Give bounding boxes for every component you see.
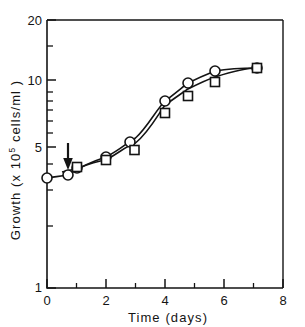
y-axis-title: Growth (x 105 cells/ml ) <box>7 80 23 240</box>
y-axis-minor-ticks <box>47 46 53 226</box>
y-tick-label-10: 10 <box>28 73 42 88</box>
x-tick-label-0: 0 <box>43 293 50 308</box>
data-point-square <box>211 78 220 87</box>
growth-curve-figure: 20 10 5 1 0 2 4 6 8 Time (days) Growth (… <box>0 0 305 327</box>
y-axis-title-tail: cells/ml ) <box>8 80 23 147</box>
x-tick-label-4: 4 <box>161 293 168 308</box>
y-tick-label-1: 1 <box>35 280 42 295</box>
x-axis-title: Time (days) <box>128 310 208 325</box>
data-point-circle <box>210 66 220 76</box>
series-squares-line <box>62 68 257 172</box>
data-point-square <box>161 109 170 118</box>
y-tick-label-20: 20 <box>28 13 42 28</box>
data-point-square <box>253 64 262 73</box>
svg-text:Growth (x 105 cells/ml ): Growth (x 105 cells/ml ) <box>7 80 23 240</box>
data-point-square <box>73 163 82 172</box>
axis-lines <box>47 20 283 288</box>
x-axis-major-ticks <box>47 279 283 288</box>
axes-frame <box>47 20 283 288</box>
x-tick-label-6: 6 <box>220 293 227 308</box>
series-squares-markers <box>73 64 262 172</box>
y-axis-title-main: Growth (x 10 <box>8 153 23 241</box>
data-point-square <box>184 92 193 101</box>
x-tick-label-2: 2 <box>102 293 109 308</box>
chart-canvas: 20 10 5 1 0 2 4 6 8 Time (days) Growth (… <box>0 0 305 327</box>
treatment-arrow-icon <box>63 143 73 170</box>
y-tick-label-5: 5 <box>35 140 42 155</box>
x-tick-label-8: 8 <box>279 293 286 308</box>
data-point-square <box>102 156 111 165</box>
data-point-circle <box>183 78 193 88</box>
data-point-square <box>130 146 139 155</box>
data-point-circle <box>160 96 170 106</box>
data-point-circle <box>63 170 73 180</box>
y-axis-major-ticks <box>47 20 56 288</box>
data-point-circle <box>42 173 52 183</box>
